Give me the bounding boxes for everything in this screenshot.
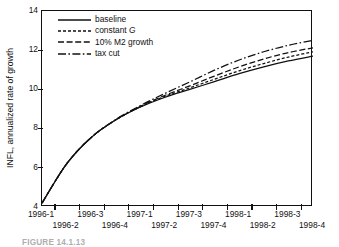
y-tick-label: 10 [20, 84, 38, 92]
x-tick-mark [202, 204, 203, 210]
chart-legend: baselineconstant G10% M2 growthtax cut [58, 14, 153, 60]
legend-label: 10% M2 growth [95, 37, 153, 48]
series-line-constant-g [42, 52, 313, 203]
x-tick-label-1997-1: 1997-1 [126, 209, 152, 219]
x-tick-mark [251, 204, 252, 210]
y-tick-label: 6 [20, 163, 38, 171]
series-line-10-m2-growth [42, 48, 313, 203]
x-tick-label-1998-2: 1998-2 [250, 220, 276, 230]
x-tick-label-1996-4: 1996-4 [102, 220, 128, 230]
legend-label: baseline [95, 14, 126, 25]
x-tick-label-1996-1: 1996-1 [28, 209, 54, 219]
y-tick-label: 12 [20, 45, 38, 53]
x-tick-label-1998-1: 1998-1 [225, 209, 251, 219]
x-tick-label-1998-3: 1998-3 [274, 209, 300, 219]
legend-item-tax-cut: tax cut [58, 48, 153, 59]
y-tick-label: 14 [20, 6, 38, 14]
x-tick-mark [54, 204, 55, 210]
x-tick-mark [153, 204, 154, 210]
x-tick-label-1998-4: 1998-4 [299, 220, 325, 230]
legend-label: tax cut [95, 48, 120, 59]
y-axis-title: INFL, annualized rate of growth [2, 8, 18, 208]
y-tick-mark [38, 128, 43, 129]
x-tick-label-1996-2: 1996-2 [53, 220, 79, 230]
x-tick-label-1997-4: 1997-4 [200, 220, 226, 230]
legend-label: constant G [95, 25, 136, 36]
y-tick-mark [38, 50, 43, 51]
legend-swatch-dashed-icon [58, 38, 91, 46]
y-tick-mark [38, 167, 43, 168]
x-tick-mark [301, 204, 302, 210]
x-tick-label-1997-2: 1997-2 [151, 220, 177, 230]
figure-caption: FIGURE 14.1.13 [22, 238, 85, 247]
y-axis-title-label: INFL, annualized rate of growth [5, 48, 15, 168]
y-tick-label: 8 [20, 123, 38, 131]
figure-root: INFL, annualized rate of growth 46810121… [0, 0, 339, 247]
x-tick-label-1996-3: 1996-3 [77, 209, 103, 219]
x-tick-label-1997-3: 1997-3 [176, 209, 202, 219]
legend-item-baseline: baseline [58, 14, 153, 25]
legend-swatch-dotted-icon [58, 27, 91, 35]
legend-item-constant-g: constant G [58, 25, 153, 36]
legend-item-10-m2-growth: 10% M2 growth [58, 37, 153, 48]
x-tick-mark [104, 204, 105, 210]
y-tick-mark [38, 89, 43, 90]
legend-swatch-solid-icon [58, 16, 91, 24]
legend-swatch-dashdot-icon [58, 50, 91, 58]
series-line-baseline [42, 56, 313, 203]
